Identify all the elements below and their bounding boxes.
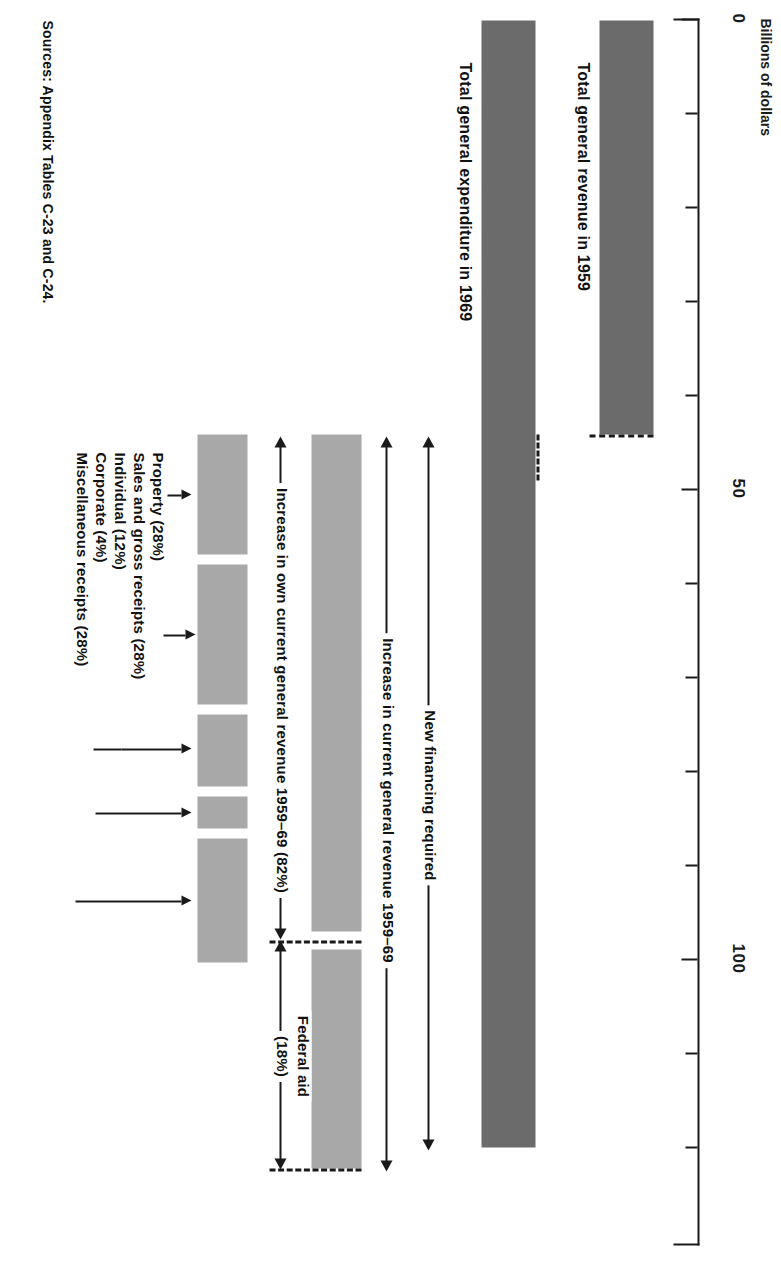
axis-tick-0 bbox=[681, 18, 697, 20]
axis-tick-20 bbox=[685, 206, 697, 208]
bar-segment-miscellaneous-receipts bbox=[197, 838, 247, 962]
value-axis-line bbox=[697, 18, 699, 1245]
span-arrow-right-new-financing bbox=[422, 1139, 434, 1150]
legend-item-miscellaneous-receipts: Miscellaneous receipts (28%) bbox=[72, 452, 91, 679]
span-label-increase-own-current-general-revenue: Increase in own current general revenue … bbox=[273, 483, 290, 898]
axis-tick-80 bbox=[685, 770, 697, 772]
figure-page: Billions of dollars 0 50 100 Total gener… bbox=[0, 0, 781, 1263]
axis-end-cap-far bbox=[673, 1243, 699, 1245]
span-label-federal-aid-percent: (18%) bbox=[273, 1030, 290, 1081]
leader-arrow-corporate bbox=[181, 807, 191, 817]
leader-arrow-sales bbox=[185, 629, 195, 639]
axis-tick-100 bbox=[681, 958, 697, 960]
axis-tick-70 bbox=[685, 676, 697, 678]
legend-item-individual: Individual (12%) bbox=[110, 452, 129, 679]
bar-increase-own-current-general-revenue bbox=[311, 434, 361, 931]
legend: Property (28%) Sales and gross receipts … bbox=[72, 452, 167, 679]
legend-item-property: Property (28%) bbox=[148, 452, 167, 679]
axis-label-0: 0 bbox=[727, 13, 747, 23]
span-arrow-left-federal-aid bbox=[274, 940, 286, 951]
span-arrow-right-increase-own bbox=[274, 928, 286, 939]
span-arrow-left-new-financing bbox=[422, 436, 434, 447]
leader-property-vertical bbox=[167, 494, 181, 496]
axis-label-50: 50 bbox=[727, 478, 747, 498]
axis-label-100: 100 bbox=[727, 943, 747, 973]
bar-label-total-general-expenditure-1969: Total general expenditure in 1969 bbox=[455, 62, 473, 321]
leader-arrow-miscellaneous bbox=[181, 895, 191, 905]
bar-segment-property bbox=[197, 434, 247, 554]
bar-label-total-general-revenue-1959: Total general revenue in 1959 bbox=[573, 62, 591, 291]
axis-tick-120 bbox=[685, 1146, 697, 1148]
legend-item-corporate: Corporate (4%) bbox=[91, 452, 110, 679]
span-label-federal-aid: Federal aid bbox=[294, 1010, 311, 1101]
axis-tick-60 bbox=[685, 582, 697, 584]
leader-sales-vertical bbox=[163, 634, 185, 636]
span-label-increase-current-general-revenue: Increase in current general revenue 1959… bbox=[379, 633, 396, 968]
leader-corporate-vertical bbox=[95, 812, 181, 814]
span-arrow-left-increase-own bbox=[274, 436, 286, 447]
bar-total-general-revenue-1959 bbox=[599, 20, 653, 434]
axis-title: Billions of dollars bbox=[757, 18, 773, 135]
leader-individual-vertical bbox=[93, 748, 121, 750]
axis-tick-110 bbox=[685, 1052, 697, 1054]
reference-dash-1959-top bbox=[536, 434, 539, 480]
axis-tick-40 bbox=[685, 394, 697, 396]
bar-total-general-expenditure-1969 bbox=[481, 20, 535, 1147]
span-arrow-right-federal-aid bbox=[274, 1158, 286, 1169]
reference-line-1959-revenue bbox=[589, 434, 653, 437]
axis-tick-90 bbox=[685, 864, 697, 866]
source-note: Sources: Appendix Tables C-23 and C-24. bbox=[39, 20, 55, 303]
bar-federal-aid bbox=[311, 949, 361, 1168]
leader-arrow-property bbox=[181, 489, 191, 499]
bar-segment-individual bbox=[197, 714, 247, 786]
legend-item-sales-and-gross-receipts: Sales and gross receipts (28%) bbox=[129, 452, 148, 679]
leader-arrow-individual bbox=[181, 743, 191, 753]
leader-miscellaneous-vertical bbox=[75, 900, 181, 902]
axis-tick-10 bbox=[685, 112, 697, 114]
bar-segment-sales-and-gross-receipts bbox=[197, 564, 247, 704]
span-label-new-financing-required: New financing required bbox=[421, 705, 438, 885]
span-arrow-right-increase-current bbox=[380, 1160, 392, 1171]
axis-tick-50 bbox=[681, 488, 697, 490]
leader-individual-stem bbox=[121, 748, 181, 750]
bar-segment-corporate bbox=[197, 796, 247, 828]
axis-tick-30 bbox=[685, 300, 697, 302]
chart-plot-area: Billions of dollars 0 50 100 Total gener… bbox=[0, 0, 781, 1263]
span-arrow-left-increase-current bbox=[380, 436, 392, 447]
